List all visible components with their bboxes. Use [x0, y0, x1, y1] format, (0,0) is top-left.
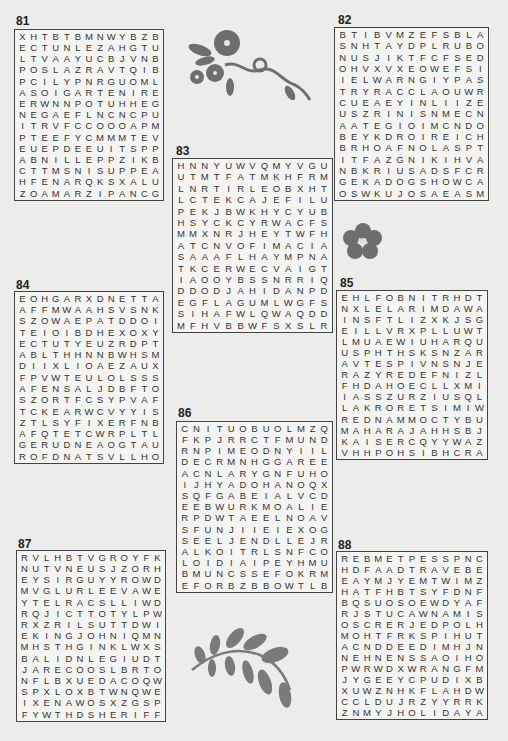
grid-letter: L [295, 501, 307, 512]
grid-letter: N [249, 535, 261, 546]
grid-letter: A [95, 65, 106, 76]
grid-letter: T [128, 439, 139, 450]
grid-letter: Z [307, 423, 319, 434]
grid-letter: T [237, 546, 249, 557]
grid-letter: T [152, 653, 163, 664]
grid-letter: V [50, 121, 61, 132]
grid-letter: W [141, 597, 152, 608]
grid-letter: E [106, 87, 117, 98]
grid-letter: W [373, 663, 384, 674]
grid-letter: R [339, 414, 350, 425]
grid-letter: E [108, 709, 119, 720]
grid-letter: C [463, 176, 474, 187]
grid-letter: Z [117, 154, 128, 165]
grid-letter: C [199, 240, 211, 251]
grid-letter: A [223, 297, 235, 308]
grid-letter: P [373, 447, 384, 458]
grid-letter: T [17, 406, 28, 417]
grid-letter: N [50, 383, 61, 394]
grid-letter: E [179, 501, 191, 512]
grid-letter: S [41, 574, 52, 585]
grid-letter: N [72, 165, 83, 176]
grid-letter: O [440, 86, 451, 97]
grid-letter: E [451, 564, 462, 575]
grid-letter: D [237, 479, 249, 490]
grid-letter: E [50, 132, 61, 143]
grid-letter: J [211, 206, 223, 217]
grid-letter: L [50, 65, 61, 76]
grid-letter: C [418, 381, 429, 392]
grid-letter: D [361, 381, 372, 392]
grid-letter: E [373, 303, 384, 314]
grid-letter: W [141, 586, 152, 597]
grid-letter: M [440, 108, 451, 119]
grid-letter: Q [318, 423, 330, 434]
grid-letter: P [50, 143, 61, 154]
grid-letter: I [383, 165, 394, 176]
grid-letter: R [348, 142, 359, 153]
grid-letter: S [452, 142, 463, 153]
grid-letter: F [339, 381, 350, 392]
grid-letter: P [418, 674, 429, 685]
grid-letter: Q [294, 308, 306, 319]
grid-letter: E [106, 327, 117, 338]
grid-letter: A [17, 154, 28, 165]
grid-letter: L [175, 183, 187, 194]
letter-grid: HNNYUWVQMYVGUUTMTFATMKHFRMLNRTIRLEOBXHTL… [172, 158, 333, 333]
grid-letter: N [337, 52, 348, 63]
grid-letter: U [318, 194, 330, 205]
grid-letter: A [371, 176, 382, 187]
grid-letter: J [108, 563, 119, 574]
grid-letter: J [395, 696, 406, 707]
grid-letter: K [191, 434, 203, 445]
grid-letter: J [394, 188, 405, 199]
grid-letter: A [429, 652, 440, 663]
grid-letter: G [130, 698, 141, 709]
grid-letter: S [17, 394, 28, 405]
grid-letter: B [85, 686, 96, 697]
grid-letter: T [128, 293, 139, 304]
grid-letter: F [28, 177, 39, 188]
grid-letter: E [117, 293, 128, 304]
grid-letter: P [139, 121, 150, 132]
letter-grid: XHTBTBMNWYBZBECTUNLEZAHGTULTVAAYUCBJVNBP… [14, 29, 164, 201]
grid-letter: O [39, 394, 50, 405]
grid-letter: L [463, 619, 474, 630]
grid-letter: E [202, 535, 214, 546]
grid-letter: W [41, 709, 52, 720]
grid-letter: E [17, 98, 28, 109]
grid-letter: E [406, 403, 417, 414]
grid-letter: D [128, 338, 139, 349]
grid-letter: A [128, 361, 139, 372]
grid-letter: E [360, 97, 371, 108]
grid-letter: N [272, 445, 284, 456]
grid-letter: H [30, 642, 41, 653]
grid-letter: L [339, 336, 350, 347]
grid-letter: Y [214, 479, 226, 490]
grid-letter: A [373, 381, 384, 392]
grid-letter: S [373, 436, 384, 447]
grid-letter: N [95, 349, 106, 360]
grid-letter: G [41, 586, 52, 597]
grid-letter: D [384, 663, 395, 674]
grid-letter: I [417, 154, 428, 165]
grid-letter: H [350, 381, 361, 392]
grid-letter: R [394, 131, 405, 142]
grid-letter: M [141, 630, 152, 641]
grid-letter: G [187, 297, 199, 308]
grid-letter: T [282, 228, 294, 239]
grid-letter: P [418, 325, 429, 336]
grid-letter: L [119, 642, 130, 653]
grid-letter: P [106, 188, 117, 199]
grid-letter: N [451, 358, 462, 369]
letter-grid: EOHGARXDNETTAAFFMWAAHSVSNKSZOWAEPATDDOIT… [14, 291, 164, 464]
grid-letter: R [249, 546, 261, 557]
grid-letter: N [211, 228, 223, 239]
grid-letter: U [95, 143, 106, 154]
grid-letter: U [85, 563, 96, 574]
grid-letter: H [384, 586, 395, 597]
grid-letter: U [202, 569, 214, 580]
grid-letter: V [211, 320, 223, 331]
grid-letter: S [95, 451, 106, 462]
grid-letter: L [284, 423, 296, 434]
